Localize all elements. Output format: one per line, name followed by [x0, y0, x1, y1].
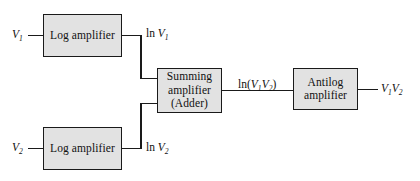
label-output-v1v2-sub1: 1 [388, 88, 392, 97]
block-summing-amplifier-label-line2: amplifier [168, 84, 211, 98]
label-ln-v1v2-sub2: 2 [269, 84, 273, 93]
label-ln-v1-base: V [158, 27, 165, 39]
wire-input-v1 [28, 35, 44, 37]
block-summing-amplifier: Summing amplifier (Adder) [157, 68, 222, 113]
block-summing-amplifier-label-line1: Summing [167, 70, 212, 84]
wire-ln-v2-horizontal [121, 148, 141, 150]
label-input-v1-base: V [12, 28, 19, 40]
wire-output-v1v2 [357, 89, 378, 91]
label-input-v2: V2 [12, 141, 23, 153]
label-ln-v2-sub: 2 [165, 147, 169, 156]
label-input-v2-sub: 2 [19, 147, 23, 156]
label-ln-v1: ln V1 [146, 27, 169, 39]
wire-ln-v2-vertical [140, 103, 142, 149]
wire-ln-v1-horizontal [121, 35, 141, 37]
block-log-amplifier-bottom: Log amplifier [43, 127, 122, 170]
wire-ln-v1-into-summing [140, 78, 158, 80]
label-ln-v1-ln: ln [146, 27, 155, 39]
label-input-v1: V1 [12, 28, 23, 40]
label-output-v1v2: V1V2 [381, 82, 403, 94]
label-ln-v1v2-base1: V [251, 78, 258, 90]
block-antilog-amplifier: Antilog amplifier [293, 68, 358, 110]
block-summing-amplifier-label-line3: (Adder) [171, 97, 208, 111]
label-ln-v1v2-sub1: 1 [258, 84, 262, 93]
block-log-amplifier-top-label: Log amplifier [50, 29, 115, 43]
label-ln-v1v2-ln: ln [238, 78, 247, 90]
label-output-v1v2-sub2: 2 [399, 88, 403, 97]
label-ln-v2-ln: ln [146, 141, 155, 153]
wire-input-v2 [28, 148, 44, 150]
label-ln-v1v2-base2: V [262, 78, 269, 90]
wire-ln-v2-into-summing [140, 103, 158, 105]
label-output-v1v2-base1: V [381, 82, 388, 94]
block-diagram-canvas: Log amplifier Log amplifier Summing ampl… [0, 0, 420, 181]
label-ln-v1v2-close-paren: ) [272, 78, 276, 90]
label-ln-v2-base: V [158, 141, 165, 153]
block-log-amplifier-top: Log amplifier [43, 14, 122, 57]
label-ln-v1-sub: 1 [165, 33, 169, 42]
block-antilog-amplifier-label-line2: amplifier [304, 89, 347, 103]
wire-ln-v1-vertical [140, 35, 142, 79]
label-output-v1v2-base2: V [392, 82, 399, 94]
label-input-v1-sub: 1 [19, 34, 23, 43]
label-ln-v1v2: ln(V1V2) [238, 78, 276, 90]
label-ln-v2: ln V2 [146, 141, 169, 153]
block-log-amplifier-bottom-label: Log amplifier [50, 142, 115, 156]
block-antilog-amplifier-label-line1: Antilog [308, 76, 344, 90]
label-input-v2-base: V [12, 141, 19, 153]
